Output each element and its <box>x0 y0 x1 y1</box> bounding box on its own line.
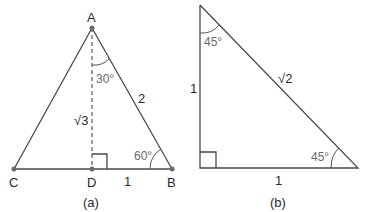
triangle-right-isosceles <box>200 5 358 168</box>
angle-label-30: 30° <box>96 72 114 86</box>
triangle-acb <box>14 28 172 169</box>
side-label-2: 2 <box>138 91 145 106</box>
diagram-canvas: A C D B 30° 60° 2 1 √3 (a) 45° 45° 1 1 √… <box>0 0 365 212</box>
angle-arc-bottom <box>331 148 339 168</box>
caption-b: (b) <box>270 195 286 210</box>
right-angle-marker-b <box>200 152 216 168</box>
right-angle-marker-d <box>92 154 107 169</box>
point-c <box>12 167 17 172</box>
figure-a: A C D B 30° 60° 2 1 √3 (a) <box>9 10 176 210</box>
angle-label-45-top: 45° <box>204 35 222 49</box>
side-label-horizontal-1: 1 <box>275 173 282 188</box>
angle-label-45-bottom: 45° <box>311 150 329 164</box>
figure-b: 45° 45° 1 1 √2 (b) <box>190 5 358 210</box>
side-label-1: 1 <box>124 174 131 189</box>
point-a <box>90 26 95 31</box>
side-label-sqrt3: √3 <box>74 113 88 128</box>
angle-arc-a <box>92 59 109 65</box>
label-d: D <box>87 175 96 190</box>
label-a: A <box>87 10 96 25</box>
label-b: B <box>167 175 176 190</box>
side-label-sqrt2: √2 <box>278 71 292 86</box>
side-label-vertical-1: 1 <box>190 81 197 96</box>
angle-arc-top <box>200 25 219 33</box>
caption-a: (a) <box>83 195 99 210</box>
label-c: C <box>9 175 18 190</box>
point-b <box>170 167 175 172</box>
point-d <box>90 167 95 172</box>
angle-label-60: 60° <box>134 149 152 163</box>
